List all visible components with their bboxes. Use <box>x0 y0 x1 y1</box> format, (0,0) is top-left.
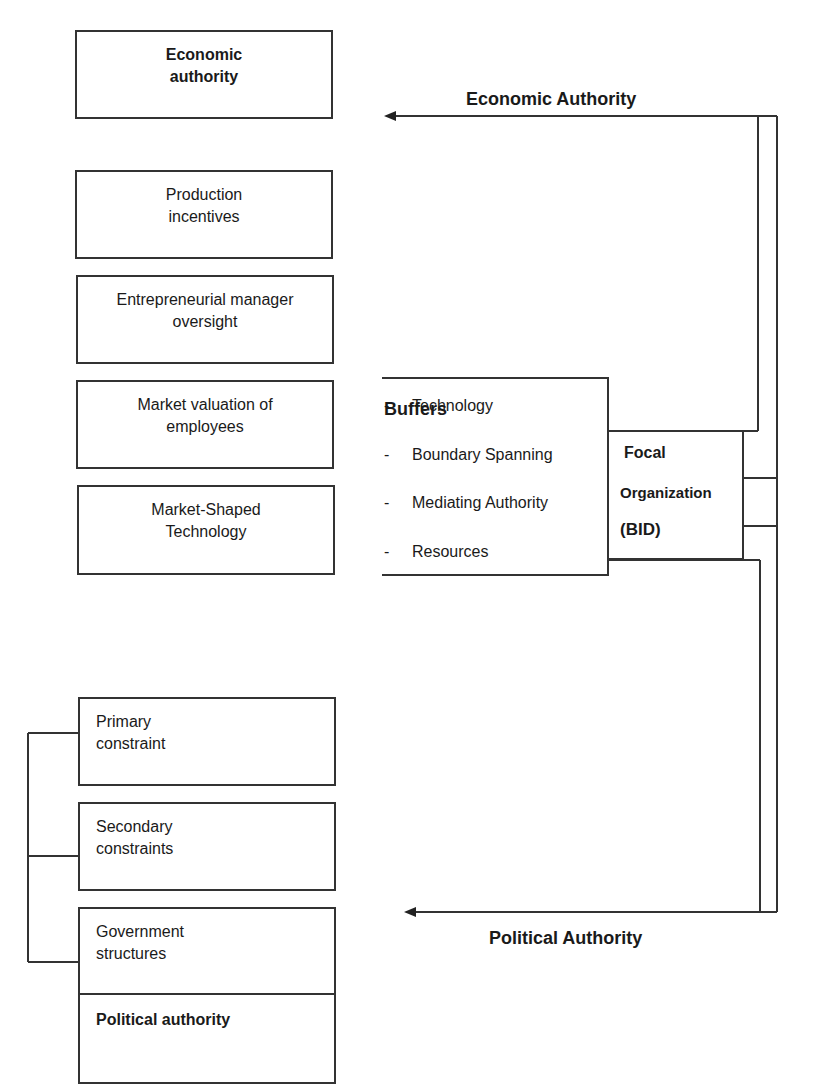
bullet-dash: - <box>382 494 412 512</box>
box-label-line2: constraints <box>96 838 334 860</box>
buffer-item-boundary-spanning: -Boundary Spanning <box>382 446 553 464</box>
buffer-item-technology: -Technology <box>382 397 493 415</box>
buffer-label: Resources <box>412 543 488 560</box>
box-label: Production incentives <box>139 184 269 228</box>
political-arrowhead-icon <box>404 907 416 917</box>
box-label-line1: Government <box>96 921 334 943</box>
production-incentives-box: Production incentives <box>75 170 333 259</box>
government-structures-section: Government structures <box>80 909 334 995</box>
box-label-line2: constraint <box>96 733 334 755</box>
buffer-label: Mediating Authority <box>412 494 548 511</box>
buffer-item-mediating-authority: -Mediating Authority <box>382 494 548 512</box>
economic-authority-label: Economic authority <box>149 44 259 88</box>
box-label-line1: Secondary <box>96 816 334 838</box>
economic-arrowhead-icon <box>384 111 396 121</box>
box-label: Entrepreneurial manager oversight <box>115 289 295 333</box>
focal-label-line1: Focal <box>624 444 666 462</box>
buffers-box: -Technology -Boundary Spanning -Mediatin… <box>382 377 609 576</box>
box-label: Market-Shaped Technology <box>131 499 281 543</box>
box-label: Market valuation of employees <box>110 394 300 438</box>
bullet-dash: - <box>382 543 412 561</box>
focal-label-line3: (BID) <box>620 520 661 540</box>
political-authority-box-label: Political authority <box>80 995 334 1031</box>
buffer-item-resources: -Resources <box>382 543 488 561</box>
government-structures-box: Government structures Political authorit… <box>78 907 336 1084</box>
box-label-line2: structures <box>96 943 334 965</box>
bullet-dash: - <box>382 397 412 415</box>
political-authority-arrow-label: Political Authority <box>489 928 642 949</box>
focal-label-line2: Organization <box>620 484 712 501</box>
primary-constraint-box: Primary constraint <box>78 697 336 786</box>
bullet-dash: - <box>382 446 412 464</box>
economic-authority-box: Economic authority <box>75 30 333 119</box>
entrepreneurial-oversight-box: Entrepreneurial manager oversight <box>76 275 334 364</box>
market-shaped-technology-box: Market-Shaped Technology <box>77 485 335 575</box>
buffer-label: Technology <box>412 397 493 414</box>
buffer-label: Boundary Spanning <box>412 446 553 463</box>
focal-organization-box: Focal Organization (BID) <box>607 430 744 560</box>
economic-authority-arrow-label: Economic Authority <box>466 89 636 110</box>
secondary-constraints-box: Secondary constraints <box>78 802 336 891</box>
market-valuation-box: Market valuation of employees <box>76 380 334 469</box>
box-label-line1: Primary <box>96 711 334 733</box>
